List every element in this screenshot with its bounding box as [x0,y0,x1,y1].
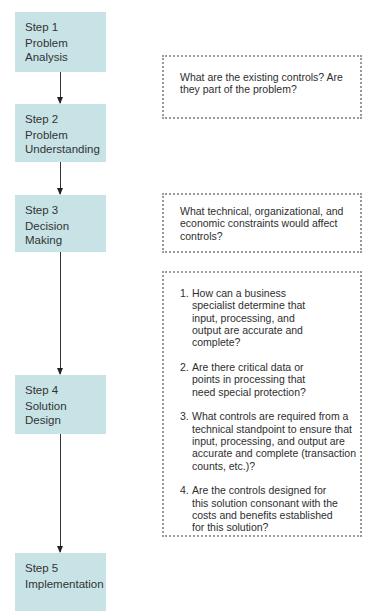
question-number: 4. [180,484,189,496]
step-name: Decision Making [25,219,85,247]
question-item: 4. Are the controls designed for this so… [180,484,342,533]
step-5-box: Step 5 Implementation [15,553,106,611]
step-4-box: Step 4 Solution Design [15,375,106,434]
question-text: How can a business specialist determine … [192,287,305,348]
question-item: 3. What controls are required from a tec… [180,410,362,471]
question-item: 1. How can a business specialist determi… [180,287,312,348]
question-number: 1. [180,287,189,299]
question-number: 2. [180,361,189,373]
arrow-2-3 [60,162,61,194]
question-list: 1. How can a business specialist determi… [180,287,352,534]
step-number: Step 3 [25,203,106,217]
step-number: Step 5 [25,561,106,575]
step-name: Problem Understanding [25,128,85,156]
note-step-1: What are the existing controls? Are they… [162,55,362,119]
note-step-4: 1. How can a business specialist determi… [162,271,362,537]
step-2-box: Step 2 Problem Understanding [15,104,106,162]
arrow-3-4 [60,252,61,374]
step-name: Solution Design [25,399,85,427]
question-item: 2. Are there critical data or points in … [180,361,317,398]
question-text: Are there critical data or points in pro… [192,361,306,398]
step-number: Step 2 [25,112,106,126]
arrow-4-5 [60,434,61,552]
step-number: Step 4 [25,383,106,397]
note-text: What technical, organizational, and econ… [180,205,355,242]
step-3-box: Step 3 Decision Making [15,195,106,252]
question-text: Are the controls designed for this solut… [192,484,338,533]
question-text: What controls are required from a techni… [192,410,356,471]
step-name: Implementation [25,577,106,591]
note-step-3: What technical, organizational, and econ… [162,193,362,253]
question-number: 3. [180,410,189,422]
note-text: What are the existing controls? Are they… [180,71,345,96]
step-number: Step 1 [25,20,106,34]
step-name: Problem Analysis [25,36,85,64]
step-1-box: Step 1 Problem Analysis [15,12,106,72]
arrow-1-2 [60,72,61,103]
